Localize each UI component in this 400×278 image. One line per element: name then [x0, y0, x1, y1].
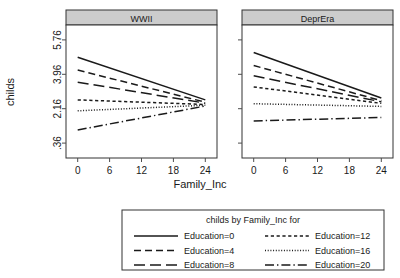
y-tick-label: 2.16 — [53, 99, 64, 119]
y-tick-label: .36 — [53, 136, 64, 150]
x-tick-label: 0 — [75, 165, 81, 176]
y-axis-label: childs — [4, 77, 16, 106]
strip-label-wwii: WWII — [131, 14, 153, 24]
legend-label-education-16: Education=16 — [315, 246, 370, 256]
x-tick-label: 12 — [136, 165, 148, 176]
legend: childs by Family_Inc forEducation=0Educa… — [122, 210, 384, 270]
x-tick-label: 6 — [283, 165, 289, 176]
panel-frame-deprera — [242, 25, 393, 158]
x-tick-label: 12 — [312, 165, 324, 176]
x-tick-label: 0 — [251, 165, 257, 176]
strip-label-deprera: DeprEra — [301, 14, 335, 24]
x-tick-label: 24 — [376, 165, 388, 176]
x-tick-label: 18 — [344, 165, 356, 176]
y-tick-label: 3.96 — [53, 64, 64, 84]
x-axis-label: Family_Inc — [173, 178, 227, 190]
legend-label-education-12: Education=12 — [315, 231, 370, 241]
legend-label-education-20: Education=20 — [315, 260, 370, 270]
legend-label-education-8: Education=8 — [184, 260, 234, 270]
panel-deprera: DeprEra06121824 — [238, 10, 393, 176]
y-tick-label: 5.76 — [53, 30, 64, 50]
legend-label-education-4: Education=4 — [184, 246, 234, 256]
x-tick-label: 18 — [168, 165, 180, 176]
x-tick-label: 6 — [107, 165, 113, 176]
panel-wwii: WWII06121824.362.163.965.76 — [53, 10, 218, 176]
trellis-chart: WWII06121824.362.163.965.76DeprEra061218… — [0, 0, 400, 278]
panel-frame-wwii — [66, 25, 217, 158]
legend-label-education-0: Education=0 — [184, 231, 234, 241]
legend-title: childs by Family_Inc for — [206, 215, 300, 225]
x-tick-label: 24 — [200, 165, 212, 176]
